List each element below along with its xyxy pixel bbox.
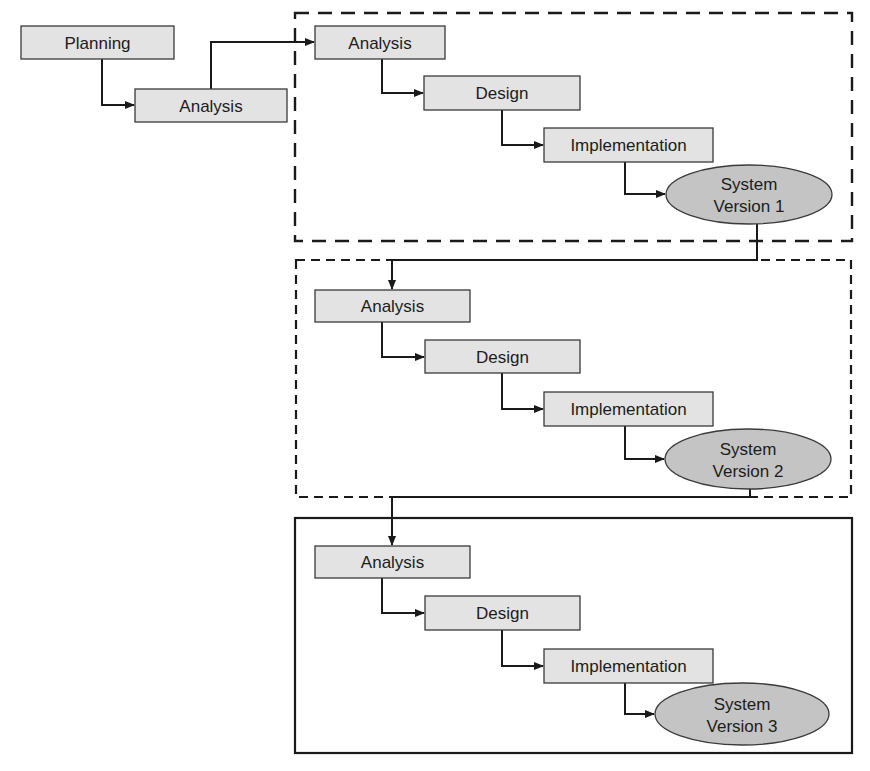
connector-i3-implementation-to-system: [625, 683, 654, 714]
i2-design-label: Design: [476, 348, 529, 367]
connector-i3-design-to-implementation: [502, 630, 543, 666]
connector-system1-to-iteration-2: [392, 224, 757, 289]
connector-i1-design-to-implementation: [502, 110, 543, 145]
connector-i2-design-to-implementation: [502, 373, 543, 409]
system-version-3-line2: Version 3: [707, 717, 778, 736]
connector-i2-implementation-to-system: [625, 426, 664, 459]
i3-implementation-label: Implementation: [570, 657, 686, 676]
preliminary-analysis-node: Analysis: [135, 89, 287, 122]
i3-analysis-label: Analysis: [361, 553, 424, 572]
system-version-3-line1: System: [714, 695, 771, 714]
system-version-1-line2: Version 1: [714, 197, 785, 216]
connector-i1-implementation-to-system: [625, 162, 665, 194]
i2-implementation-label: Implementation: [570, 400, 686, 419]
i1-analysis-node: Analysis: [315, 26, 445, 59]
i1-design-node: Design: [424, 76, 580, 110]
i3-implementation-node: Implementation: [544, 649, 713, 683]
i1-analysis-label: Analysis: [348, 34, 411, 53]
connector-i3-analysis-to-design: [382, 578, 424, 613]
system-version-2-node: System Version 2: [665, 429, 831, 489]
i1-design-label: Design: [476, 84, 529, 103]
preliminary-analysis-label: Analysis: [179, 97, 242, 116]
connector-planning-to-analysis: [102, 59, 134, 105]
i2-analysis-label: Analysis: [361, 297, 424, 316]
i2-design-node: Design: [425, 340, 580, 373]
system-version-2-line2: Version 2: [713, 462, 784, 481]
connector-i2-analysis-to-design: [382, 322, 424, 357]
system-version-1-line1: System: [721, 175, 778, 194]
i3-analysis-node: Analysis: [315, 546, 470, 578]
system-version-2-line1: System: [720, 440, 777, 459]
connector-i1-analysis-to-design: [382, 59, 423, 93]
system-version-3-node: System Version 3: [655, 683, 829, 745]
planning-label: Planning: [64, 34, 130, 53]
i2-analysis-node: Analysis: [315, 290, 470, 322]
i2-implementation-node: Implementation: [544, 392, 713, 426]
i3-design-label: Design: [476, 604, 529, 623]
i1-implementation-node: Implementation: [544, 128, 713, 162]
connector-analysis-to-iteration-1: [211, 42, 314, 89]
i1-implementation-label: Implementation: [570, 136, 686, 155]
planning-node: Planning: [21, 26, 174, 59]
system-version-1-node: System Version 1: [666, 165, 832, 224]
diagram-canvas: Planning Analysis Analysis Design Implem…: [0, 0, 870, 771]
i3-design-node: Design: [425, 596, 580, 630]
